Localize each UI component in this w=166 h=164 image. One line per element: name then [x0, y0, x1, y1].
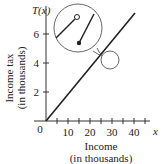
y-tick-label: 6	[34, 28, 40, 40]
y-tick-label: 4	[34, 57, 40, 69]
y-axis-name: T(x)	[32, 4, 51, 17]
zoom-target-circle	[101, 51, 119, 69]
x-tick-label: 40	[129, 126, 141, 138]
x-tick-label: 20	[85, 126, 97, 138]
open-dot-icon	[75, 15, 80, 20]
y-tick-label: 2	[34, 86, 40, 98]
closed-dot-icon	[77, 41, 81, 45]
x-axis-subtitle: (in thousands)	[70, 152, 133, 164]
origin-label: 0	[37, 123, 43, 135]
y-axis-title: Income tax	[3, 53, 15, 103]
x-axis-name: x	[152, 125, 158, 137]
x-tick-label: 10	[63, 126, 75, 138]
y-axis-subtitle: (in thousands)	[15, 46, 28, 109]
x-tick-label: 30	[107, 126, 119, 138]
x-axis-title: Income	[85, 140, 118, 152]
income-tax-chart: 0 10 20 30 40 2 4 6 T(x) x Income (in th…	[0, 0, 166, 164]
